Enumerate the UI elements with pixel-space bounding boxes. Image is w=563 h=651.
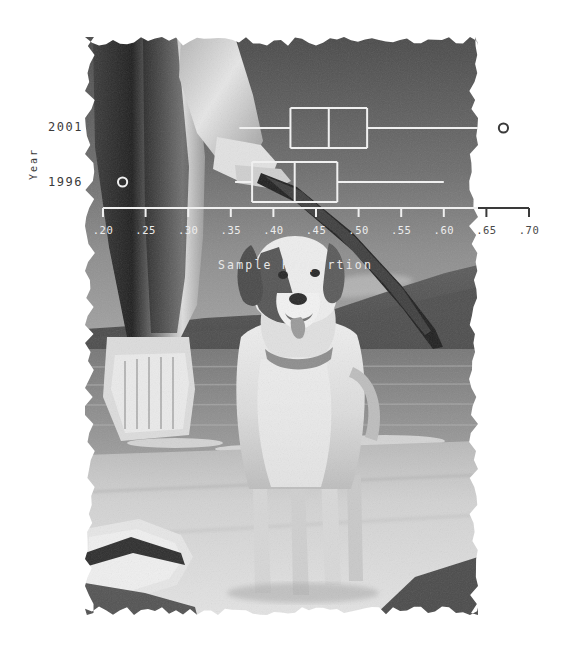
x-tick-label-5: .45: [306, 224, 326, 236]
x-tick-label-1: .25: [135, 224, 155, 236]
x-tick-label-0: .20: [93, 224, 113, 236]
y-tick-label-2001: 2001: [48, 120, 83, 134]
photograph: [85, 37, 478, 615]
x-tick-label-3: .35: [221, 224, 241, 236]
x-tick-label-10: .70: [519, 224, 539, 236]
x-tick-label-2: .30: [178, 224, 198, 236]
x-tick-label-6: .50: [348, 224, 368, 236]
x-tick-label-8: .60: [434, 224, 454, 236]
x-tick-label-7: .55: [391, 224, 411, 236]
y-axis-title: Year: [28, 148, 39, 180]
photograph-image: [85, 37, 478, 615]
x-axis-title: Sample Proportion: [218, 258, 373, 272]
y-tick-label-1996: 1996: [48, 175, 83, 189]
x-tick-label-9: .65: [476, 224, 496, 236]
x-tick-label-4: .40: [263, 224, 283, 236]
figure-canvas: Year 2001 1996 Sample Proportion .20.25.…: [0, 0, 563, 651]
outlier-2001: [499, 123, 508, 132]
